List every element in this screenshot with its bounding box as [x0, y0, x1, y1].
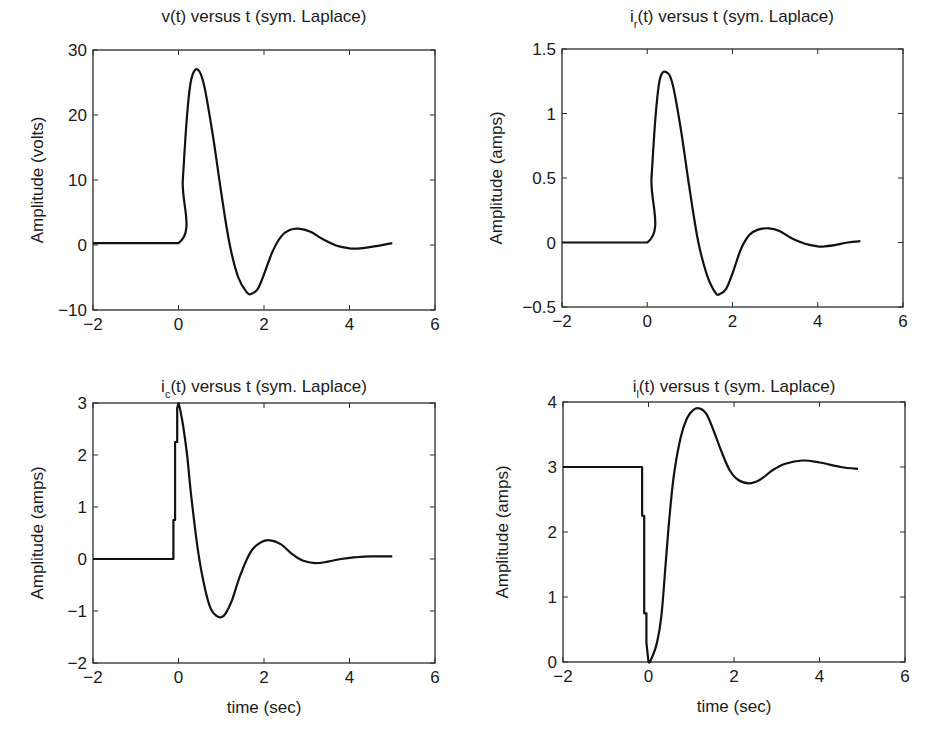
y-tick-label: 3 — [548, 458, 557, 477]
tick-marks — [93, 50, 435, 310]
y-tick-label: 2 — [548, 523, 557, 542]
y-tick-label: −2 — [68, 654, 87, 673]
x-tick-label: 6 — [900, 667, 909, 686]
axes-box — [93, 50, 435, 310]
x-axis-label: time (sec) — [697, 697, 772, 716]
data-line — [562, 72, 860, 295]
subplot-title: ir(t) versus t (sym. Laplace) — [630, 7, 834, 30]
y-tick-label: 0 — [547, 234, 556, 253]
tick-labels: −2024601234 — [548, 393, 910, 686]
subplot-il: il(t) versus t (sym. Laplace) Amplitude … — [493, 377, 910, 716]
y-tick-label: −10 — [58, 301, 87, 320]
data-line — [563, 408, 858, 662]
y-tick-label: 0.5 — [532, 169, 556, 188]
x-tick-label: 4 — [345, 315, 354, 334]
x-tick-label: 4 — [815, 667, 824, 686]
y-axis-label: Amplitude (amps) — [493, 465, 512, 598]
y-tick-label: 20 — [68, 106, 87, 125]
y-tick-label: 1 — [548, 588, 557, 607]
data-line — [93, 69, 392, 294]
x-tick-label: 0 — [174, 315, 183, 334]
x-tick-label: 2 — [259, 315, 268, 334]
y-axis-label: Amplitude (amps) — [28, 466, 47, 599]
y-tick-label: 1.5 — [532, 40, 556, 59]
figure: v(t) versus t (sym. Laplace) Amplitude (… — [0, 0, 932, 735]
x-tick-label: 2 — [259, 668, 268, 687]
y-tick-label: 10 — [68, 171, 87, 190]
subplot-title: v(t) versus t (sym. Laplace) — [162, 7, 367, 26]
axes-box — [562, 49, 903, 307]
subplot-ir: ir(t) versus t (sym. Laplace) Amplitude … — [487, 7, 908, 331]
x-tick-label: 0 — [174, 668, 183, 687]
y-tick-label: −1 — [68, 602, 87, 621]
tick-labels: −20246−100102030 — [58, 41, 440, 334]
axes-box — [563, 402, 905, 662]
subplot-title: ic(t) versus t (sym. Laplace) — [161, 377, 367, 400]
x-tick-label: 4 — [813, 312, 822, 331]
tick-marks — [93, 403, 435, 663]
x-tick-label: 2 — [728, 312, 737, 331]
tick-labels: −20246−0.500.511.5 — [522, 40, 907, 331]
x-tick-label: 6 — [898, 312, 907, 331]
y-axis-label: Amplitude (volts) — [28, 117, 47, 244]
x-tick-label: 6 — [430, 668, 439, 687]
y-tick-label: 1 — [78, 498, 87, 517]
y-tick-label: 3 — [78, 394, 87, 413]
x-tick-label: 0 — [643, 312, 652, 331]
y-tick-label: 4 — [548, 393, 557, 412]
x-tick-label: 6 — [430, 315, 439, 334]
x-axis-label: time (sec) — [227, 698, 302, 717]
y-tick-label: 0 — [78, 236, 87, 255]
tick-labels: −20246−2−10123 — [68, 394, 440, 687]
x-tick-label: 2 — [729, 667, 738, 686]
y-tick-label: 1 — [547, 105, 556, 124]
data-line — [93, 403, 392, 618]
tick-marks — [562, 49, 903, 307]
y-tick-label: −0.5 — [522, 298, 556, 317]
x-tick-label: 0 — [644, 667, 653, 686]
y-tick-label: 2 — [78, 446, 87, 465]
subplot-v: v(t) versus t (sym. Laplace) Amplitude (… — [28, 7, 440, 334]
y-tick-label: 0 — [548, 653, 557, 672]
x-tick-label: 4 — [345, 668, 354, 687]
y-tick-label: 0 — [78, 550, 87, 569]
y-axis-label: Amplitude (amps) — [487, 111, 506, 244]
tick-marks — [563, 402, 905, 662]
y-tick-label: 30 — [68, 41, 87, 60]
subplot-title: il(t) versus t (sym. Laplace) — [633, 377, 836, 400]
axes-box — [93, 403, 435, 663]
subplot-ic: ic(t) versus t (sym. Laplace) Amplitude … — [28, 377, 440, 717]
